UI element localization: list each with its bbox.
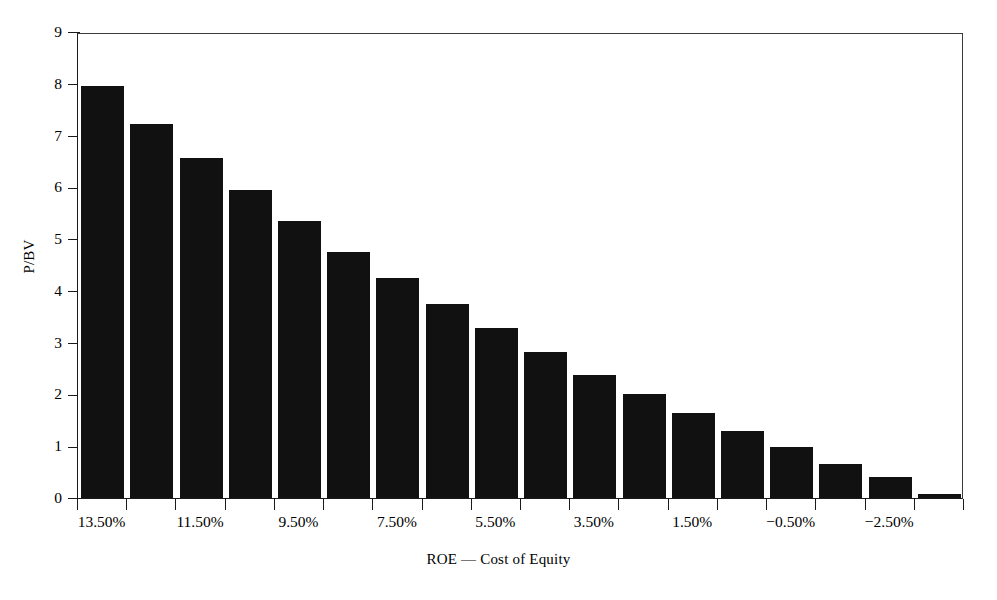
- x-tick: [668, 499, 669, 510]
- y-tick-label: 2: [36, 386, 62, 402]
- bar: [819, 464, 862, 498]
- x-tick: [372, 499, 373, 510]
- x-tick-label: 5.50%: [450, 513, 540, 531]
- bar: [721, 431, 764, 498]
- x-tick-label: 11.50%: [155, 513, 245, 531]
- y-axis-title: P/BV: [21, 197, 38, 317]
- bar: [426, 304, 469, 498]
- x-tick-label: 13.50%: [57, 513, 147, 531]
- x-tick: [274, 499, 275, 510]
- y-tick-label: 9: [36, 24, 62, 40]
- x-tick-label: 1.50%: [647, 513, 737, 531]
- bar: [770, 447, 813, 498]
- x-tick: [914, 499, 915, 510]
- y-tick-label: 3: [36, 335, 62, 351]
- bar: [869, 477, 912, 498]
- x-tick: [471, 499, 472, 510]
- x-tick: [766, 499, 767, 510]
- y-tick-label: 7: [36, 128, 62, 144]
- x-tick: [77, 499, 78, 510]
- bar: [81, 86, 124, 498]
- x-tick: [963, 499, 964, 510]
- bar: [475, 328, 518, 498]
- y-tick-label: 1: [36, 438, 62, 454]
- x-tick: [422, 499, 423, 510]
- x-tick: [865, 499, 866, 510]
- x-tick-label: 7.50%: [352, 513, 442, 531]
- bar-series: [78, 34, 962, 498]
- x-tick: [569, 499, 570, 510]
- plot-area: [77, 33, 963, 499]
- x-tick-label: −0.50%: [746, 513, 836, 531]
- x-tick: [323, 499, 324, 510]
- x-tick-label: 9.50%: [254, 513, 344, 531]
- y-tick-label: 4: [36, 283, 62, 299]
- bar: [918, 494, 961, 498]
- x-tick: [618, 499, 619, 510]
- bar: [524, 352, 567, 498]
- y-tick-label: 0: [36, 490, 62, 506]
- bar: [672, 413, 715, 498]
- bar: [180, 158, 223, 498]
- x-tick: [717, 499, 718, 510]
- x-tick: [126, 499, 127, 510]
- x-tick: [175, 499, 176, 510]
- bar: [573, 375, 616, 498]
- x-axis-title: ROE — Cost of Equity: [0, 551, 997, 568]
- bar: [376, 278, 419, 498]
- x-tick-label: 3.50%: [549, 513, 639, 531]
- bar: [229, 190, 272, 498]
- bar: [130, 124, 173, 498]
- x-tick-label: −2.50%: [844, 513, 934, 531]
- chart-figure: P/BV 0123456789 13.50%11.50%9.50%7.50%5.…: [0, 0, 997, 600]
- y-tick-label: 8: [36, 76, 62, 92]
- x-tick: [815, 499, 816, 510]
- bar: [623, 394, 666, 498]
- y-tick-label: 6: [36, 179, 62, 195]
- y-tick-label: 5: [36, 231, 62, 247]
- x-tick: [520, 499, 521, 510]
- bar: [278, 221, 321, 498]
- bar: [327, 252, 370, 498]
- x-tick: [225, 499, 226, 510]
